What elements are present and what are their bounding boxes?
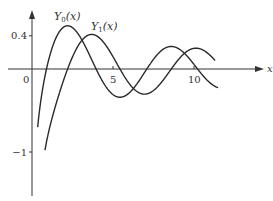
x-tick-label: 0 — [23, 74, 29, 85]
axis-ticks: 05100.4−1 — [11, 30, 201, 157]
y-tick-label: −1 — [12, 147, 27, 158]
x-axis-arrow-icon — [255, 66, 264, 72]
series-label: Y0(x) — [54, 10, 81, 24]
y-tick-label: 0.4 — [11, 30, 27, 41]
x-axis-label: x — [267, 63, 273, 74]
x-tick-label: 10 — [188, 74, 201, 85]
bessel-chart: x 05100.4−1 Y0(x)Y1(x) — [0, 0, 273, 201]
y-axis — [29, 10, 35, 196]
series-labels: Y0(x)Y1(x) — [54, 10, 118, 34]
x-tick-label: 5 — [110, 74, 116, 85]
series-label: Y1(x) — [91, 20, 118, 34]
curves — [38, 26, 218, 150]
y-axis-arrow-icon — [29, 10, 35, 19]
